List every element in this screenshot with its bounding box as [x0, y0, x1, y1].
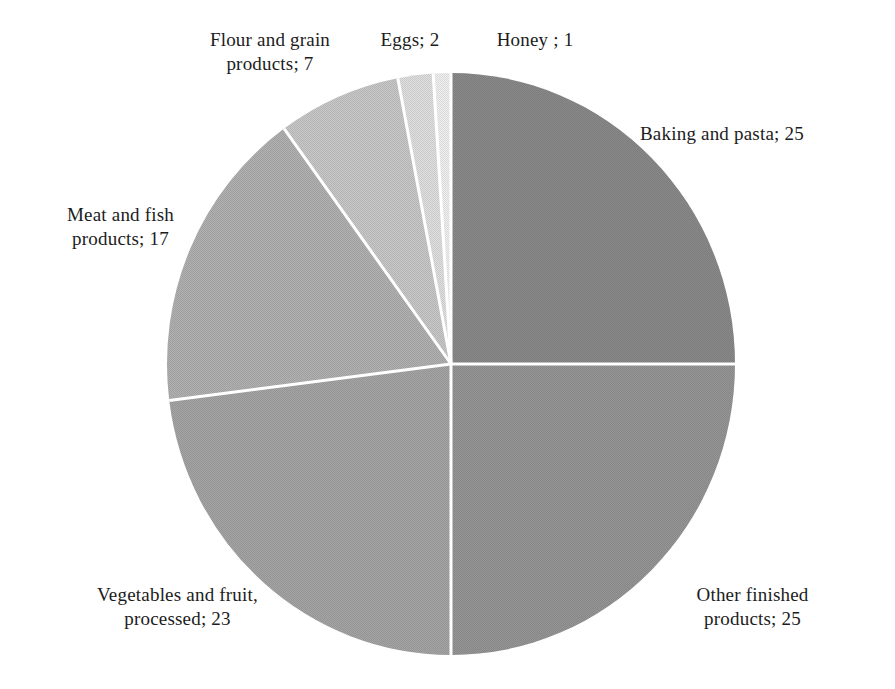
pie-chart-figure: Flour and grain products; 7 Eggs; 2 Hone… [0, 0, 895, 689]
slice-label-other-finished-products: Other finished products; 25 [645, 583, 860, 631]
slice-label-baking-and-pasta: Baking and pasta; 25 [640, 122, 885, 146]
pie-slice-texture [451, 73, 735, 364]
slice-label-honey: Honey ; 1 [455, 28, 615, 52]
slice-label-flour-and-grain-products: Flour and grain products; 7 [165, 28, 375, 76]
slice-label-meat-and-fish-products: Meat and fish products; 17 [18, 203, 223, 251]
slice-label-vegetables-and-fruit-processed: Vegetables and fruit, processed; 23 [45, 583, 310, 631]
